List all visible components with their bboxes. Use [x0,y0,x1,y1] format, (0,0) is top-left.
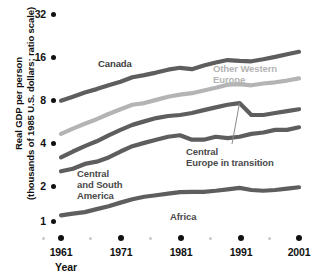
series-label-other-western-europe: Other Western Europe [213,63,277,85]
series-label-africa-text: Africa [170,211,196,222]
series-label-canada-text: Canada [98,58,132,69]
gdp-per-person-chart: Real GDP per person (thousands of 1985 U… [0,0,312,277]
series-label-other-western-europe-line2: Europe [213,74,277,85]
series-label-central-and-south-america: Central and South America [77,168,123,201]
series-label-canada: Canada [98,58,132,69]
plot-area [0,0,312,277]
series-label-africa: Africa [170,211,196,222]
series-label-central-europe-in-transition: Central Europe in transition [186,146,274,168]
series-label-other-western-europe-line1: Other Western [213,63,277,74]
series-label-csa-line3: America [77,190,123,201]
series-label-central-europe-line1: Central [186,146,274,157]
series-label-csa-line2: and South [77,179,123,190]
series-label-central-europe-line2: Europe in transition [186,157,274,168]
series-line-other-western-europe [61,78,299,134]
series-label-csa-line1: Central [77,168,123,179]
